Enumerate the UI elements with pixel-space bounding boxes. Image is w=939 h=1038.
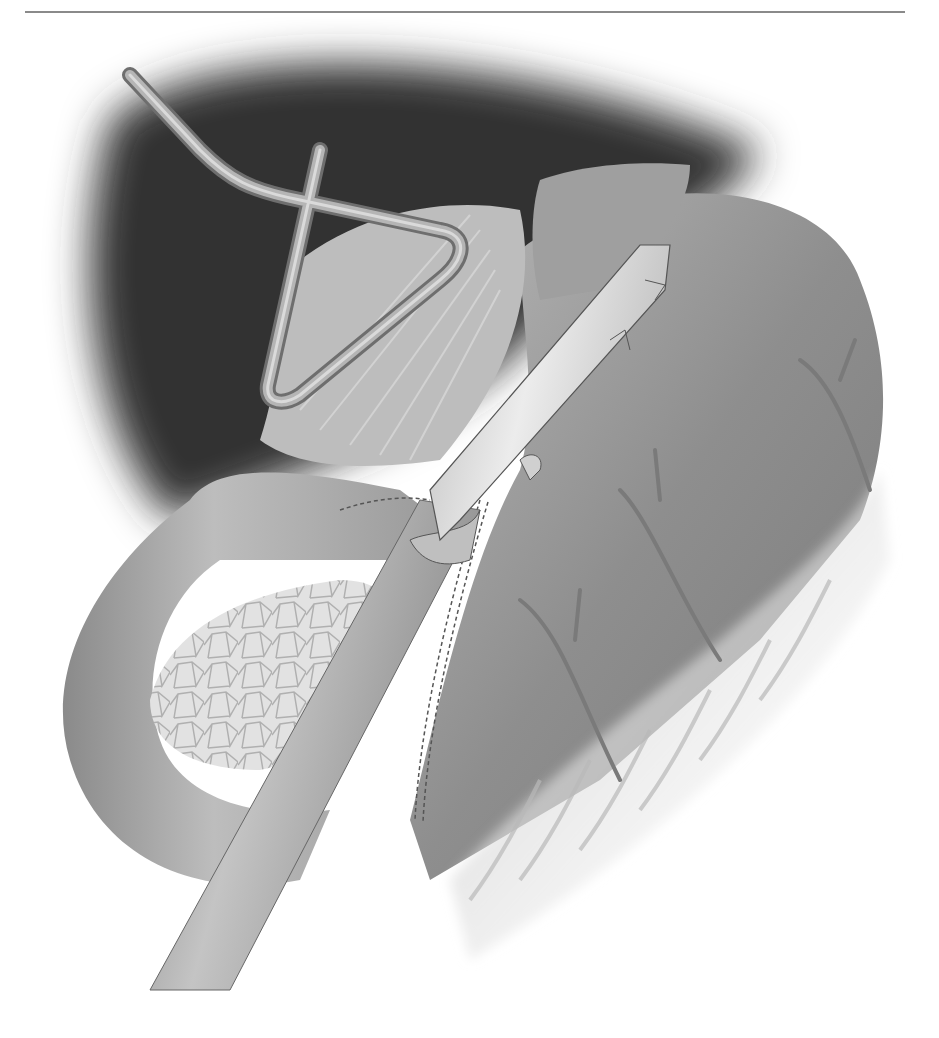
surgical-illustration <box>0 0 939 1038</box>
